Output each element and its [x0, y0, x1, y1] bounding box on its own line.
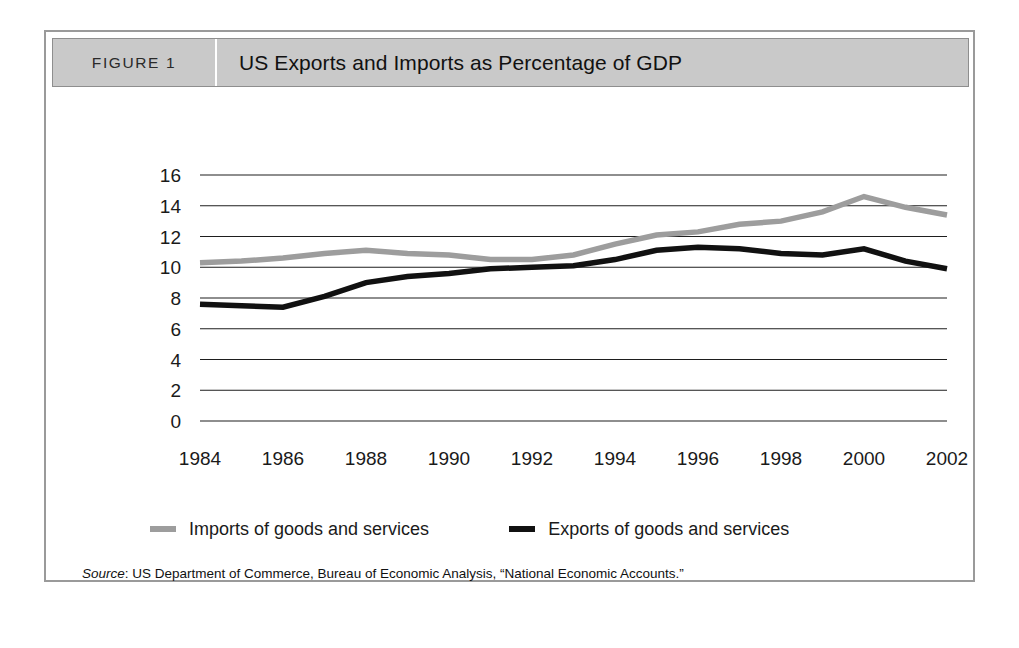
- y-axis-tick-label: 12: [160, 227, 181, 248]
- figure-header-bar: FIGURE 1 US Exports and Imports as Perce…: [52, 38, 969, 87]
- source-label: Source: [82, 566, 125, 581]
- line-swatch-icon: [150, 526, 176, 532]
- figure-title: US Exports and Imports as Percentage of …: [239, 51, 682, 75]
- y-axis-tick-label: 2: [170, 380, 181, 401]
- x-axis-tick-label: 1996: [677, 448, 719, 469]
- y-axis-tick-label: 10: [160, 257, 181, 278]
- x-axis-tick-label: 1998: [760, 448, 802, 469]
- figure-number-cell: FIGURE 1: [53, 39, 217, 86]
- y-axis-tick-label: 14: [160, 196, 182, 217]
- line-swatch-icon: [509, 526, 535, 532]
- x-axis-tick-label: 1986: [262, 448, 304, 469]
- y-axis-tick-label: 4: [170, 350, 181, 371]
- figure-title-cell: US Exports and Imports as Percentage of …: [217, 39, 968, 86]
- y-axis-tick-label: 8: [170, 288, 181, 309]
- y-axis-tick-label: 16: [160, 165, 181, 186]
- x-axis-tick-label: 2002: [926, 448, 968, 469]
- x-axis-tick-label: 1984: [179, 448, 222, 469]
- line-chart: 1614121086420198419861988199019921994199…: [52, 94, 969, 494]
- x-axis-tick-label: 1994: [594, 448, 637, 469]
- figure-number-label: FIGURE 1: [92, 54, 176, 72]
- y-axis-tick-label: 0: [170, 411, 181, 432]
- x-axis-tick-label: 1990: [428, 448, 470, 469]
- figure-container: FIGURE 1 US Exports and Imports as Perce…: [44, 30, 975, 582]
- legend-label: Imports of goods and services: [189, 519, 429, 540]
- x-axis-tick-label: 2000: [843, 448, 885, 469]
- legend-item: Imports of goods and services: [150, 519, 429, 540]
- source-note: Source: US Department of Commerce, Burea…: [52, 566, 969, 581]
- chart-legend: Imports of goods and servicesExports of …: [52, 512, 969, 546]
- x-axis-tick-label: 1992: [511, 448, 553, 469]
- legend-item: Exports of goods and services: [509, 519, 789, 540]
- y-axis-tick-label: 6: [170, 319, 181, 340]
- x-axis-tick-label: 1988: [345, 448, 387, 469]
- legend-label: Exports of goods and services: [548, 519, 789, 540]
- chart-plot-area: 1614121086420198419861988199019921994199…: [52, 94, 969, 494]
- source-text: US Department of Commerce, Bureau of Eco…: [132, 566, 683, 581]
